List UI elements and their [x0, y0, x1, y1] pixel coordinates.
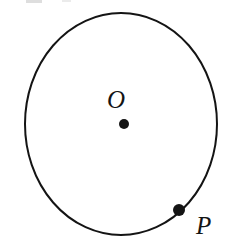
circle-diagram: O P [0, 0, 242, 250]
point-p-label: P [196, 213, 211, 238]
point-p-dot [173, 204, 185, 216]
center-point-label: O [107, 87, 125, 112]
center-point-dot [119, 119, 129, 129]
